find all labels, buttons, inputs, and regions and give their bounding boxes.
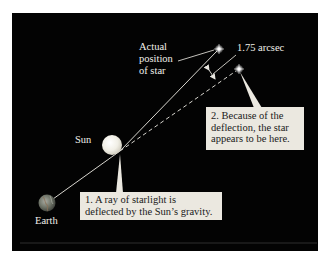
actual-position-label-line-2: position	[139, 53, 173, 65]
callout-1-line-2: deflected by the Sun’s gravity.	[85, 206, 217, 218]
deflection-angle-label: 1.75 arcsec	[237, 42, 284, 54]
callout-2-line-2: deflection, the star	[211, 122, 299, 134]
callout-2-line-3: appears to be here.	[211, 133, 299, 145]
actual-position-label: Actual position of star	[139, 41, 173, 77]
earth-label: Earth	[35, 215, 58, 227]
callout-2-line-1: 2. Because of the	[211, 110, 299, 122]
arcsec-leader-line	[213, 55, 236, 74]
callout-1-line-1: 1. A ray of starlight is	[85, 194, 217, 206]
actual-position-label-line-3: of star	[139, 65, 173, 77]
callout-apparent-position: 2. Because of the deflection, the star a…	[206, 107, 304, 150]
actual-position-label-line-1: Actual	[139, 41, 173, 53]
callout-2-pointer	[240, 72, 262, 108]
sun-icon	[102, 135, 122, 155]
angle-bracket-arrow	[209, 70, 215, 79]
sun-label: Sun	[75, 134, 91, 146]
earth-icon	[39, 195, 56, 212]
callout-ray-deflected: 1. A ray of starlight is deflected by th…	[80, 192, 222, 220]
apparent-star-icon	[234, 64, 244, 74]
callout-1-pointer	[116, 154, 123, 193]
